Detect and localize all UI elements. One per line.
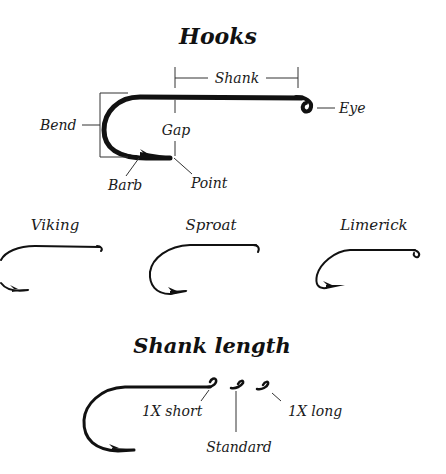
limerick-hook xyxy=(316,250,419,289)
leader-1x-short xyxy=(201,390,209,401)
label-standard: Standard xyxy=(206,439,272,455)
fishing-hooks-diagram: Hooks Shank Eye Bend Gap Barb P xyxy=(0,0,446,474)
eye-1x-long xyxy=(257,382,268,389)
leader-1x-long xyxy=(272,393,281,401)
sproat-hook xyxy=(150,245,259,295)
anatomy-hook xyxy=(104,97,311,159)
label-sproat: Sproat xyxy=(185,216,237,234)
label-shank: Shank xyxy=(215,70,259,86)
eye-1x-short xyxy=(208,379,216,387)
label-1x-long: 1X long xyxy=(288,403,342,419)
diagram-title: Hooks xyxy=(178,23,257,49)
point-leader xyxy=(174,158,192,174)
viking-hook xyxy=(1,246,102,292)
label-eye: Eye xyxy=(338,100,365,116)
label-bend: Bend xyxy=(39,117,77,133)
barb-leader xyxy=(126,158,139,176)
label-barb: Barb xyxy=(107,177,142,193)
shank-length-title: Shank length xyxy=(133,333,290,358)
label-viking: Viking xyxy=(31,216,80,234)
label-1x-short: 1X short xyxy=(142,403,203,419)
label-limerick: Limerick xyxy=(339,216,407,234)
eye-standard xyxy=(231,381,243,388)
label-gap: Gap xyxy=(162,122,191,138)
hook-shank-bend xyxy=(104,97,302,158)
label-point: Point xyxy=(190,175,228,191)
